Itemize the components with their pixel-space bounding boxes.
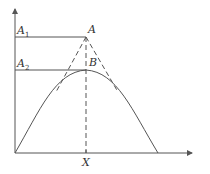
diagram-canvas: A1 A2 A B X — [0, 0, 210, 174]
label-a1: A1 — [16, 24, 29, 39]
label-a2: A2 — [16, 57, 29, 72]
label-point-b: B — [88, 56, 97, 69]
label-point-a: A — [87, 23, 96, 36]
label-x: X — [81, 156, 91, 169]
dashed-tangent-left — [56, 37, 86, 92]
